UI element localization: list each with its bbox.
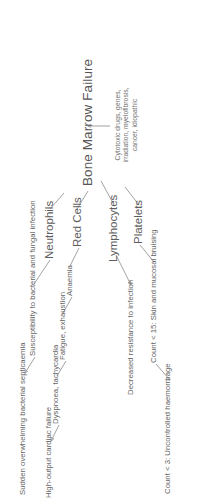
node-platelet-count-3: Count < 3: Uncontrolled haemorrhage [164,363,173,494]
node-sudden-septicaemia: Sudden overwhelming bacterial septicaemi… [19,342,28,495]
node-platelets: Platelets [132,200,145,244]
node-red-cells: Red Cells [71,197,84,247]
node-neutrophils: Neutrophils [43,201,56,259]
node-susceptibility-infection: Susceptibility to bacterial and fungal i… [29,200,38,356]
node-lymphocytes: Lymphocytes [107,195,120,262]
connector-red-cells-to-anaemia [70,248,79,266]
node-causes: Cytotoxic drugs, genes, irradiation, mye… [114,87,139,163]
node-high-output-cardiac-failure: High-output cardiac failure [45,407,54,498]
node-bone-marrow-failure: Bone Marrow Failure [80,59,95,186]
node-platelet-count-15: Count < 15: Skin and mucosal bruising [150,229,159,363]
node-decreased-resistance: Decreased resistance to infection [127,280,136,395]
